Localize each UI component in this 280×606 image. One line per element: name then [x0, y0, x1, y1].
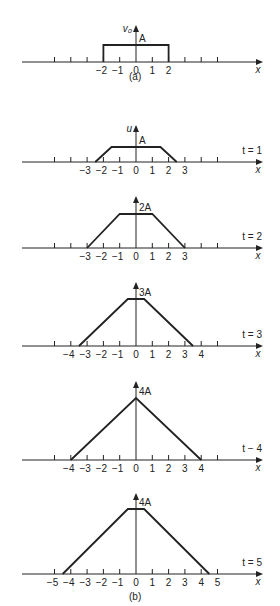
tick-label: −1 — [112, 65, 124, 76]
tick-label: −3 — [79, 165, 91, 176]
x-axis-label: x — [255, 576, 262, 587]
tick-label: −4 — [63, 349, 75, 360]
tick-label: 2 — [166, 349, 172, 360]
figure-canvas: xv₀−2−1012Axu−3−2−10123At = 1x−3−2−10123… — [0, 0, 280, 606]
tick-label: −3 — [79, 463, 91, 474]
tick-label: −3 — [79, 577, 91, 588]
height-label: A — [139, 33, 146, 44]
tick-label: 3 — [182, 165, 188, 176]
tick-label: 2 — [166, 165, 172, 176]
caption-a: (a) — [129, 71, 141, 82]
tick-label: 4 — [198, 463, 204, 474]
tick-label: 1 — [150, 165, 156, 176]
tick-label: −2 — [96, 65, 108, 76]
tick-label: 2 — [166, 577, 172, 588]
tick-label: 1 — [150, 251, 156, 262]
tick-label: 1 — [150, 463, 156, 474]
time-label: t = 1 — [242, 145, 262, 156]
tick-label: −4 — [63, 577, 75, 588]
height-label: 4A — [139, 497, 152, 508]
time-label: t = 2 — [242, 231, 262, 242]
height-label: 2A — [139, 202, 152, 213]
tick-label: 2 — [166, 463, 172, 474]
height-label: 3A — [139, 287, 152, 298]
tick-label: 3 — [182, 251, 188, 262]
time-label: t − 4 — [242, 443, 262, 454]
x-axis-label: x — [255, 64, 262, 75]
tick-label: 0 — [133, 577, 139, 588]
height-label: A — [139, 135, 146, 146]
y-axis-arrow-icon — [133, 25, 139, 32]
tick-label: 1 — [150, 65, 156, 76]
tick-label: −2 — [96, 577, 108, 588]
y-axis-label: u — [126, 123, 132, 134]
tick-label: 5 — [215, 577, 221, 588]
tick-label: −5 — [47, 577, 59, 588]
tick-label: 2 — [166, 251, 172, 262]
tick-label: 4 — [198, 577, 204, 588]
tick-label: −1 — [112, 349, 124, 360]
tick-label: 0 — [133, 165, 139, 176]
x-axis-label: x — [255, 250, 262, 261]
tick-label: 2 — [166, 65, 172, 76]
tick-label: −2 — [96, 349, 108, 360]
time-label: t = 5 — [242, 557, 262, 568]
tick-label: −2 — [96, 165, 108, 176]
tick-label: 3 — [182, 577, 188, 588]
tick-label: −3 — [79, 251, 91, 262]
tick-label: 3 — [182, 463, 188, 474]
tick-label: −1 — [112, 577, 124, 588]
x-axis-label: x — [255, 164, 262, 175]
tick-label: −1 — [112, 165, 124, 176]
tick-label: −2 — [96, 463, 108, 474]
tick-label: −2 — [96, 251, 108, 262]
tick-label: 0 — [133, 463, 139, 474]
x-axis-label: x — [255, 348, 262, 359]
tick-label: 0 — [133, 251, 139, 262]
tick-label: 1 — [150, 577, 156, 588]
tick-label: −4 — [63, 463, 75, 474]
tick-label: 1 — [150, 349, 156, 360]
tick-label: 4 — [198, 349, 204, 360]
time-label: t = 3 — [242, 329, 262, 340]
tick-label: −1 — [112, 463, 124, 474]
tick-label: −3 — [79, 349, 91, 360]
tick-label: 3 — [182, 349, 188, 360]
y-axis-arrow-icon — [133, 125, 139, 132]
y-axis-label: v₀ — [123, 23, 132, 34]
height-label: 4A — [139, 386, 152, 397]
x-axis-label: x — [255, 462, 262, 473]
tick-label: 0 — [133, 349, 139, 360]
tick-label: −1 — [112, 251, 124, 262]
caption-b: (b) — [129, 591, 141, 602]
